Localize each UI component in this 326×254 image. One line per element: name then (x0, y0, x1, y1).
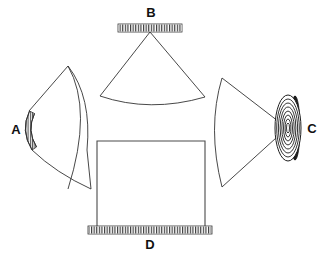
component-b-fan (100, 32, 205, 105)
component-b-grating (118, 24, 182, 32)
label-d: D (145, 237, 154, 252)
component-d-grating (88, 226, 212, 234)
component-a-fan (29, 66, 91, 189)
diagram-canvas: A B C D (0, 0, 326, 254)
component-c-detector (275, 95, 301, 161)
component-a-curved-grating (25, 111, 36, 150)
label-c: C (307, 121, 317, 136)
component-d-body (97, 141, 205, 227)
label-b: B (146, 5, 155, 20)
label-a: A (11, 122, 21, 137)
